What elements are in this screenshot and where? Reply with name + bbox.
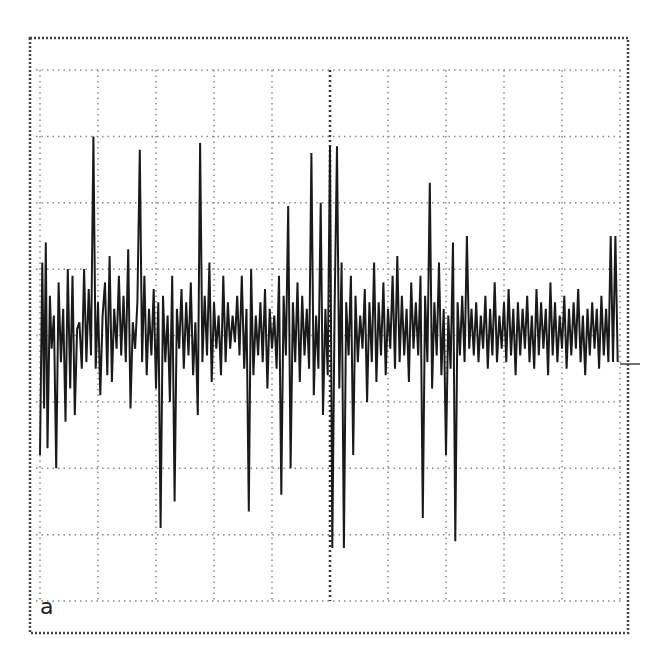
oscilloscope-chart	[0, 0, 670, 656]
panel-label: a	[40, 596, 53, 618]
